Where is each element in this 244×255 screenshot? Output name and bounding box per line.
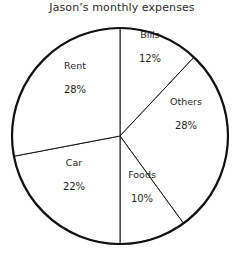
- pie-label-value-bills: 12%: [139, 53, 161, 64]
- pie-label-car: Car22%: [63, 157, 85, 192]
- pie-chart-figure: Jason’s monthly expenses Bills12%Others2…: [0, 0, 244, 255]
- pie-label-name-bills: Bills: [139, 29, 161, 40]
- pie-label-value-car: 22%: [63, 181, 85, 192]
- pie-label-bills: Bills12%: [139, 29, 161, 64]
- pie-label-name-others: Others: [170, 96, 202, 107]
- pie-label-others: Others28%: [170, 96, 202, 131]
- pie-chart-svg: [0, 0, 244, 255]
- pie-label-value-foods: 10%: [128, 193, 156, 204]
- pie-label-foods: Foods10%: [128, 169, 156, 204]
- pie-label-name-rent: Rent: [64, 60, 86, 71]
- pie-label-rent: Rent28%: [64, 60, 86, 95]
- pie-label-name-foods: Foods: [128, 169, 156, 180]
- pie-label-value-others: 28%: [170, 120, 202, 131]
- pie-label-value-rent: 28%: [64, 84, 86, 95]
- pie-label-name-car: Car: [63, 157, 85, 168]
